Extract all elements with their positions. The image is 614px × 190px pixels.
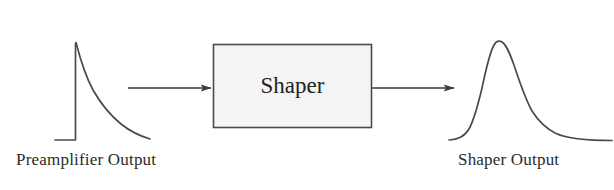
signal-chain-diagram: Shaper Preamplifier Output Shaper Output — [0, 0, 614, 190]
preamp-rise-edge — [55, 44, 76, 141]
shaper-output-label: Shaper Output — [458, 150, 559, 170]
preamplifier-output-waveform — [55, 43, 150, 141]
shaper-output-waveform — [449, 41, 612, 140]
preamp-decay-tail — [76, 43, 150, 140]
shaper-block-label: Shaper — [213, 73, 372, 99]
preamplifier-output-label: Preamplifier Output — [16, 150, 156, 170]
shaper-bell-curve — [449, 41, 612, 140]
